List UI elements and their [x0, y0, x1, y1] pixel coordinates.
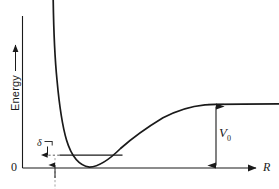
well-depth-label: δ: [37, 138, 42, 148]
potential-energy-figure: Energy 0 R δ V0: [0, 0, 279, 189]
y-axis-label-group: Energy: [8, 41, 24, 111]
dissociation-energy-symbol: V: [219, 125, 227, 140]
potential-curve: [53, 0, 279, 167]
dissociation-energy-label: V0: [219, 126, 231, 143]
x-axis-label: R: [263, 161, 270, 173]
dissociation-energy-subscript: 0: [227, 134, 231, 143]
y-axis-label-arrow-svg: [8, 41, 24, 111]
origin-label: 0: [11, 161, 17, 173]
potential-energy-plot: [0, 0, 279, 189]
